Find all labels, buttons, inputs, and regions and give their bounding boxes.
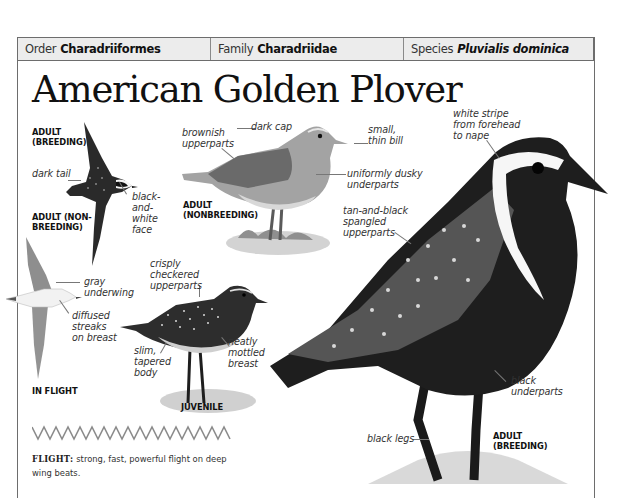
caption-dark-tail: dark tail: [32, 168, 71, 179]
caption-black-legs: black legs: [367, 433, 414, 444]
family-value: Charadriidae: [257, 42, 337, 56]
species-value: Pluvialis dominica: [457, 42, 569, 56]
adult-breeding-label: ADULT (BREEDING): [493, 431, 547, 451]
caption-neatly-mottled-breast: neatly mottled breast: [228, 336, 265, 369]
leader-line: [56, 282, 80, 283]
caption-white-stripe: white stripe from forehead to nape: [453, 108, 520, 141]
order-cell: Order Charadriiformes: [18, 38, 211, 60]
taxonomy-header: Order Charadriiformes Family Charadriida…: [17, 37, 594, 61]
leader-line: [68, 180, 81, 181]
caption-tan-and-black-spangled-upperparts: tan-and-black spangled upperparts: [343, 205, 408, 238]
order-key: Order: [25, 42, 56, 56]
leader-line: [413, 439, 429, 440]
adult-nonbreeding-flight-label: ADULT (NON- BREEDING): [32, 212, 92, 232]
in-flight-label: IN FLIGHT: [32, 386, 77, 396]
caption-dark-cap: dark cap: [251, 121, 292, 132]
caption-small-thin-bill: small, thin bill: [368, 124, 403, 146]
family-cell: Family Charadriidae: [211, 38, 404, 60]
adult-breeding-plover-illustration: [268, 130, 613, 484]
caption-black-underparts: black underparts: [511, 375, 563, 397]
order-value: Charadriiformes: [60, 42, 160, 56]
flight-pattern-zigzag-icon: [32, 425, 232, 441]
caption-brownish-upperparts: brownish upperparts: [182, 127, 234, 149]
juvenile-label: JUVENILE: [181, 402, 223, 412]
family-key: Family: [218, 42, 253, 56]
caption-gray-underwing: gray underwing: [84, 276, 134, 298]
caption-black-and-white-face: black- and- white face: [132, 191, 160, 235]
adult-nonbreeding-label: ADULT (NONBREEDING): [183, 200, 258, 220]
caption-uniformly-dusky-underparts: uniformly dusky underparts: [347, 168, 423, 190]
flight-description: FLIGHT:strong, fast, powerful flight on …: [32, 452, 242, 480]
species-cell: Species Pluvialis dominica: [404, 38, 593, 60]
caption-diffused-streaks: diffused streaks on breast: [72, 310, 117, 343]
caption-slim-tapered-body: slim, tapered body: [134, 345, 171, 378]
species-key: Species: [411, 42, 453, 56]
page-title: American Golden Plover: [32, 68, 462, 111]
leader-line: [354, 143, 368, 144]
caption-crisply-checkered-upperparts: crisply checkered upperparts: [150, 258, 202, 291]
flight-heading: FLIGHT:: [32, 454, 73, 464]
leader-line: [316, 174, 346, 175]
adult-breeding-flight-label: ADULT (BREEDING): [32, 127, 86, 147]
